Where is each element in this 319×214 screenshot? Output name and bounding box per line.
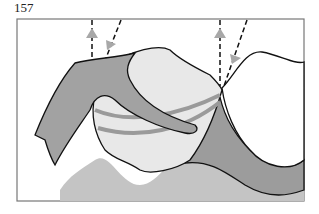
dental-illustration: [0, 0, 319, 214]
